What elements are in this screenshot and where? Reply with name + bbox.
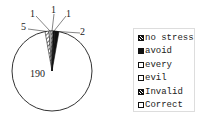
black-swatch-icon <box>138 48 144 54</box>
legend-item-avoid: avoid <box>138 45 194 59</box>
chart-root: 5 1 1 1 2 190 no stress avoid every evil… <box>0 0 201 122</box>
leader-line <box>36 16 50 31</box>
outline-swatch-icon <box>138 102 144 108</box>
legend-item-correct: Correct <box>138 99 194 113</box>
label-every: 1 <box>30 8 35 19</box>
legend: no stress avoid every evil Invalid Corre… <box>133 28 195 112</box>
label-no-stress: 5 <box>21 21 26 32</box>
label-avoid: 2 <box>80 26 85 37</box>
legend-item-invalid: Invalid <box>138 85 194 99</box>
outline-swatch-icon <box>138 75 144 81</box>
legend-item-every: every <box>138 58 194 72</box>
legend-item-evil: evil <box>138 72 194 86</box>
label-invalid: 1 <box>66 8 71 19</box>
label-correct: 190 <box>30 68 45 79</box>
leader-line <box>28 29 47 32</box>
label-evil: 1 <box>51 4 56 15</box>
leader-line <box>52 14 54 31</box>
outline-swatch-icon <box>138 62 144 68</box>
hatched-swatch-icon <box>138 35 144 41</box>
leader-line <box>54 16 66 31</box>
legend-item-no-stress: no stress <box>138 31 194 45</box>
hatched-swatch-icon <box>138 89 144 95</box>
